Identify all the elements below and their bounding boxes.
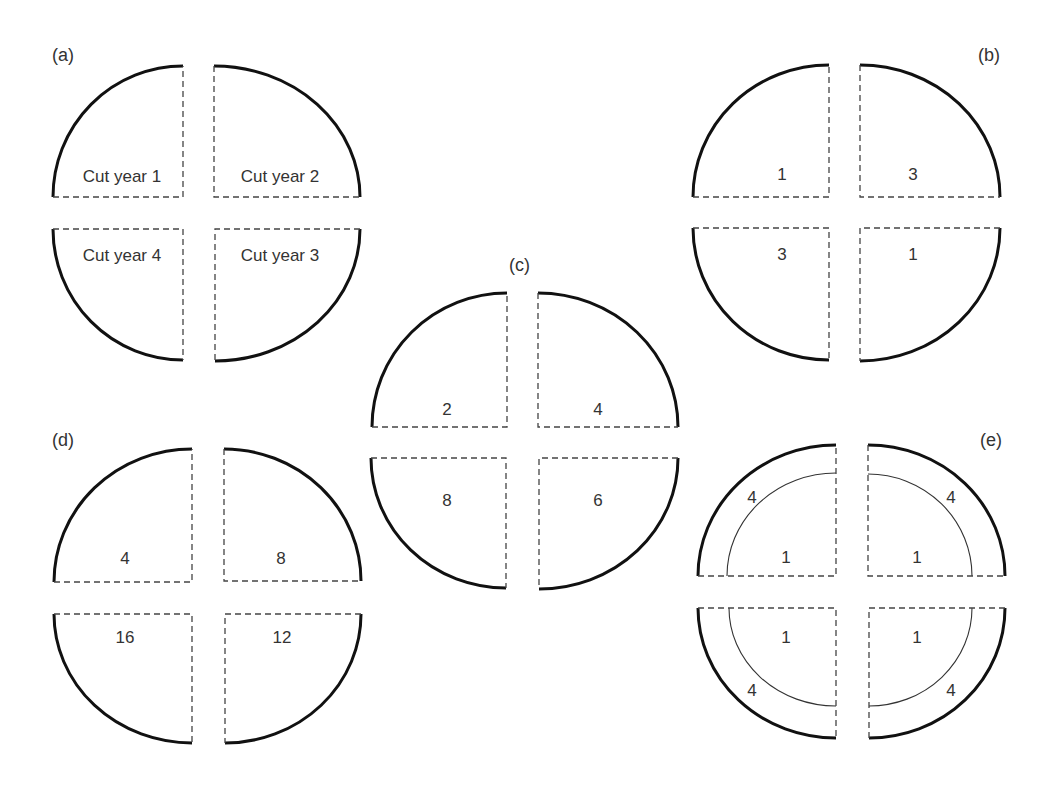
quadrant-label: Cut year 2 [241,167,319,186]
outer-ring-label: 4 [747,681,756,700]
inner-core-label: 1 [781,628,790,647]
cut-boundary [372,293,507,427]
cut-boundary [698,445,836,576]
quadrant-top-right: 8 [224,449,361,581]
panel-c: (c) 2 4 8 6 [371,255,678,589]
quadrant-label: 6 [593,491,602,510]
quadrant-top-right: 4 1 [868,445,1005,576]
panel-label-d: (d) [52,430,74,450]
panel-a: (a) Cut year 1 Cut year 2 Cut year 4 Cut… [52,45,360,361]
quadrant-label: 12 [273,628,292,647]
panel-b: (b) 1 3 3 1 [693,45,1000,361]
quadrant-label: Cut year 4 [83,246,161,265]
quadrant-label: 1 [908,245,917,264]
quadrant-top-right: 3 [860,65,1000,197]
outer-ring-label: 4 [946,488,955,507]
quadrant-bottom-right: 1 [860,228,1000,361]
quadrant-label: 3 [908,165,917,184]
outer-arc [225,614,361,743]
outer-arc [869,608,1005,738]
quadrant-label: 2 [442,400,451,419]
panel-label-c: (c) [509,255,530,275]
inner-arc [729,608,836,706]
quadrant-bottom-left: 1 4 [698,608,836,738]
outer-arc [224,449,361,581]
outer-arc [698,445,836,576]
quadrant-label: 4 [120,549,129,568]
cut-boundary [225,614,361,743]
cut-boundary [698,608,836,738]
quadrant-label: 8 [276,549,285,568]
panel-label-e: (e) [980,430,1002,450]
cut-boundary [224,449,361,581]
quadrant-top-left: 4 [54,449,192,582]
panel-d: (d) 4 8 16 12 [52,430,361,743]
quadrant-bottom-right: 6 [539,458,678,589]
cut-boundary [869,608,1005,738]
outer-arc [868,445,1005,576]
cut-boundary [860,228,1000,361]
outer-arc [372,293,507,427]
outer-ring-label: 4 [747,488,756,507]
outer-arc [538,293,678,427]
quadrant-bottom-left: 8 [371,458,506,588]
cut-boundary [860,65,1000,197]
inner-core-label: 1 [912,548,921,567]
outer-arc [860,65,1000,197]
cut-boundary [539,458,678,589]
outer-arc [539,458,678,589]
outer-arc [698,608,836,738]
cut-boundary [868,445,1005,576]
quadrant-bottom-right: 12 [225,614,361,743]
outer-arc [693,65,829,197]
quadrant-bottom-right: 1 4 [869,608,1005,738]
outer-arc [371,458,506,588]
cut-boundary [538,293,678,427]
panel-label-b: (b) [978,45,1000,65]
outer-arc [693,228,829,360]
panel-label-a: (a) [52,45,74,65]
quadrant-bottom-right: Cut year 3 [215,229,360,361]
inner-core-label: 1 [912,628,921,647]
quadrant-label: Cut year 3 [241,246,319,265]
quadrant-label: 4 [593,400,602,419]
quadrant-top-left: Cut year 1 [53,66,183,197]
quadrant-label: 8 [442,491,451,510]
quadrant-top-right: 4 [538,293,678,427]
quadrant-bottom-left: Cut year 4 [53,229,183,360]
quadrant-cutting-diagram: (a) Cut year 1 Cut year 2 Cut year 4 Cut… [0,0,1052,789]
quadrant-label: 3 [777,245,786,264]
cut-boundary [371,458,506,588]
quadrant-top-left: 1 [693,65,829,197]
quadrant-top-right: Cut year 2 [214,66,360,197]
quadrant-label: Cut year 1 [83,167,161,186]
cut-boundary [693,228,829,360]
inner-arc [869,608,972,706]
outer-ring-label: 4 [946,681,955,700]
outer-arc [860,228,1000,361]
inner-core-label: 1 [781,548,790,567]
quadrant-top-left: 4 1 [698,445,836,576]
quadrant-label: 1 [777,165,786,184]
quadrant-bottom-left: 3 [693,228,829,360]
cut-boundary [693,65,829,197]
quadrant-label: 16 [116,628,135,647]
panel-e: (e) 4 1 4 1 1 4 1 [698,430,1005,738]
quadrant-bottom-left: 16 [54,614,192,743]
quadrant-top-left: 2 [372,293,507,427]
